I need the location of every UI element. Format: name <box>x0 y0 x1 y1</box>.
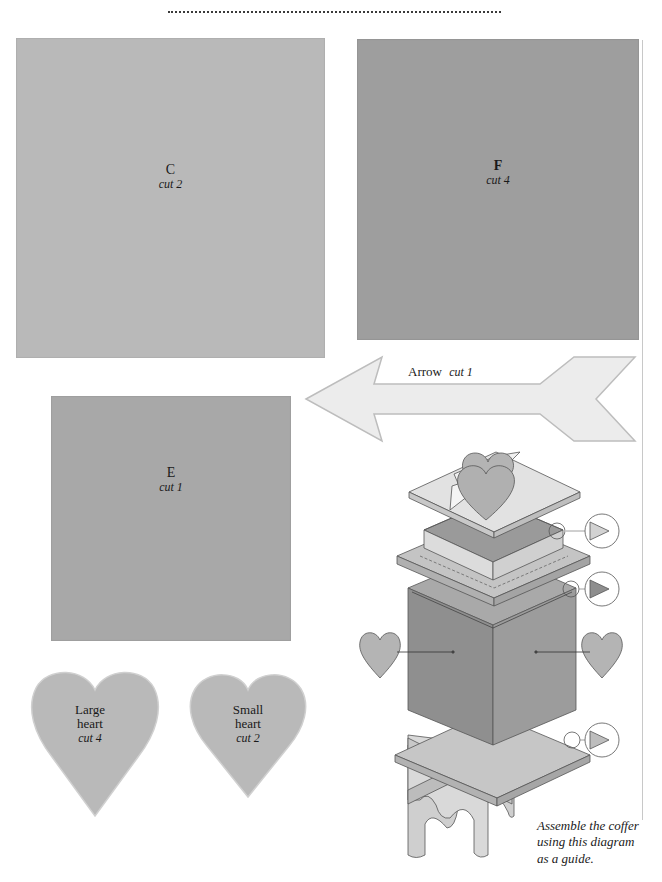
large-heart-name-line2: heart <box>62 717 118 731</box>
assembly-diagram <box>360 452 623 858</box>
diagram-left-heart <box>360 633 401 678</box>
large-heart-label: Large heart cut 4 <box>62 703 118 745</box>
small-heart-name-line2: heart <box>220 717 276 731</box>
small-heart-cut: cut 2 <box>220 732 276 745</box>
arrow-cut: cut 1 <box>449 365 473 379</box>
diagram-right-heart <box>582 633 623 678</box>
diagram-caption: Assemble the coffer using this diagram a… <box>537 818 657 867</box>
large-heart-name-line1: Large <box>62 703 118 717</box>
small-heart-label: Small heart cut 2 <box>220 703 276 745</box>
large-heart-cut: cut 4 <box>62 732 118 745</box>
caption-line-2: using this diagram <box>537 834 657 850</box>
caption-line-3: as a guide. <box>537 851 657 867</box>
arrow-label: Arrow cut 1 <box>408 364 473 380</box>
arrow-name: Arrow <box>408 364 442 379</box>
caption-line-1: Assemble the coffer <box>537 818 657 834</box>
small-heart-name-line1: Small <box>220 703 276 717</box>
shapes-layer <box>0 0 662 882</box>
